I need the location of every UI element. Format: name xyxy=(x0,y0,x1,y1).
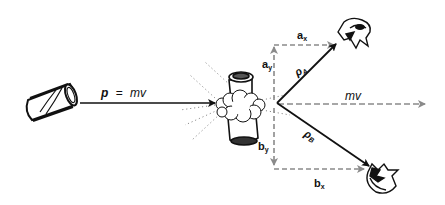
label-p: p xyxy=(101,86,108,100)
fragment-b-icon xyxy=(367,164,398,193)
debris-cloud xyxy=(216,90,265,122)
fragment-a-icon xyxy=(338,18,370,48)
by-letter: b xyxy=(258,140,265,152)
incoming-momentum-label: p = mv xyxy=(101,87,146,99)
rho-b-arrow xyxy=(277,103,369,166)
colliding-can-icon xyxy=(216,72,265,145)
ay-label: ay xyxy=(262,59,272,71)
diagram-canvas xyxy=(0,0,445,205)
resultant-mv-label: mv xyxy=(345,90,361,102)
by-label: by xyxy=(258,141,269,153)
ax-label: ax xyxy=(297,30,307,42)
bx-subscript: x xyxy=(321,183,325,190)
bx-letter: b xyxy=(314,177,321,189)
by-subscript: y xyxy=(265,146,269,153)
label-mv: mv xyxy=(130,86,146,100)
bx-label: bx xyxy=(314,178,325,190)
ay-subscript: y xyxy=(268,64,272,71)
momentum-diagram: p = mv ax ay ρA mv by ρB bx xyxy=(0,0,445,205)
incoming-can-icon xyxy=(27,83,80,121)
label-equals: = xyxy=(116,86,123,100)
ax-subscript: x xyxy=(303,35,307,42)
